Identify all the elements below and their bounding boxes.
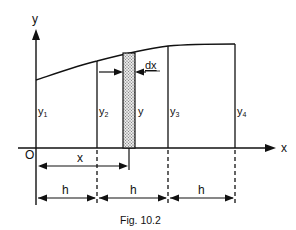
h-dimensions: h h h bbox=[38, 183, 234, 202]
x-dim-arrow-left-icon bbox=[38, 163, 47, 170]
h-label-1: h bbox=[62, 183, 69, 197]
dx-label: dx bbox=[145, 59, 157, 71]
ordinate-lines bbox=[97, 44, 235, 148]
y-axis-arrow-icon bbox=[32, 29, 40, 40]
ordinate-label-y2: y2 bbox=[99, 105, 109, 118]
x-dim-arrow-right-icon bbox=[119, 163, 128, 170]
h-label-2: h bbox=[130, 183, 137, 197]
ordinate-label-y3: y3 bbox=[170, 105, 180, 118]
h-label-3: h bbox=[198, 183, 205, 197]
origin-label: O bbox=[25, 148, 34, 162]
figure-diagram: y x O y1 y2 y3 y4 y dx bbox=[0, 0, 296, 230]
elemental-strip: y dx bbox=[99, 53, 160, 148]
y-axis-label: y bbox=[32, 12, 38, 26]
x-axis-label: x bbox=[281, 141, 287, 155]
x-axis: x O bbox=[18, 141, 287, 162]
figure-caption: Fig. 10.2 bbox=[120, 214, 161, 226]
x-dimension-label: x bbox=[77, 151, 83, 165]
x-axis-arrow-icon bbox=[265, 144, 276, 152]
ordinate-label-y4: y4 bbox=[237, 105, 247, 118]
x-dimension: x bbox=[38, 148, 129, 170]
dx-arrow-right-icon bbox=[114, 69, 123, 76]
strip-height-label: y bbox=[138, 105, 144, 117]
ordinate-label-y1: y1 bbox=[38, 105, 48, 118]
dx-arrow-left-icon bbox=[135, 69, 144, 76]
